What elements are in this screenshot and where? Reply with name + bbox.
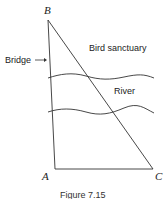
bridge-label: Bridge xyxy=(5,55,31,65)
point-b-label: B xyxy=(44,4,51,16)
sanctuary-label: Bird sanctuary xyxy=(89,43,147,53)
triangle-diagram: B A C Bridge Bird sanctuary River Figure… xyxy=(0,0,164,199)
river-label: River xyxy=(114,86,135,96)
point-c-label: C xyxy=(155,170,163,182)
river-bank-upper xyxy=(48,74,154,79)
side-ab xyxy=(48,20,55,169)
figure-caption: Figure 7.15 xyxy=(60,190,106,199)
point-a-label: A xyxy=(41,170,49,182)
river-bank-lower xyxy=(48,105,154,114)
arrow-head-icon xyxy=(44,58,47,62)
